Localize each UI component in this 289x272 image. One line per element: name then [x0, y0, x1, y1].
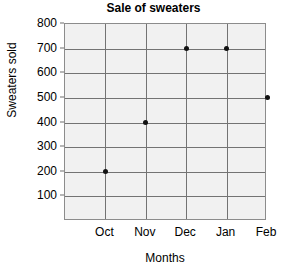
gridline-vertical	[227, 24, 228, 219]
x-tick-label: Jan	[216, 226, 235, 238]
x-tick-label: Dec	[175, 226, 196, 238]
gridline-horizontal	[65, 98, 265, 99]
plot-area	[64, 23, 266, 220]
gridline-horizontal	[65, 147, 265, 148]
gridline-horizontal	[65, 123, 265, 124]
gridline-horizontal	[65, 73, 265, 74]
data-point-marker	[103, 169, 108, 174]
y-tick-label: 400	[37, 116, 57, 128]
gridline-horizontal	[65, 49, 265, 50]
y-tick-label: 300	[37, 140, 57, 152]
x-tick-label: Feb	[256, 226, 277, 238]
y-tick-label: 200	[37, 165, 57, 177]
chart-container: Sale of sweaters Sweaters sold 800700600…	[0, 0, 289, 272]
gridline-vertical	[186, 24, 187, 219]
y-tick-label: 700	[37, 42, 57, 54]
data-point-marker	[143, 120, 148, 125]
y-tick-label: 500	[37, 91, 57, 103]
x-tick-label: Nov	[134, 226, 155, 238]
gridline-horizontal	[65, 196, 265, 197]
data-point-marker	[224, 46, 229, 51]
y-tick-label: 600	[37, 66, 57, 78]
data-point-marker	[265, 95, 270, 100]
gridline-vertical	[105, 24, 106, 219]
x-axis-title: Months	[64, 252, 266, 264]
x-axis: OctNovDecJanFeb	[0, 222, 289, 242]
y-tick-label: 800	[37, 17, 57, 29]
y-tick-label: 100	[37, 189, 57, 201]
x-tick-label: Oct	[95, 226, 114, 238]
gridline-horizontal	[65, 172, 265, 173]
data-point-marker	[184, 46, 189, 51]
y-axis-title: Sweaters sold	[6, 30, 18, 130]
